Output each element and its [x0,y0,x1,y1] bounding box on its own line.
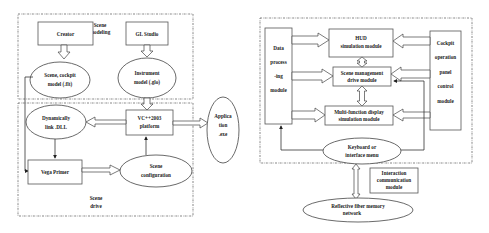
data-to-hud-arrow [292,33,329,47]
vc-to-application-arrow [173,118,208,128]
instrument-model-ellipse [118,58,176,98]
vega-label: Vega Primer [41,169,70,175]
cockpit-label-4: control [438,83,454,89]
data-label-1: Data [273,45,284,51]
vc-to-dll-arrow [86,117,126,127]
data-label-3: -ing [274,73,283,79]
dynamic-link-dll-ellipse [26,105,86,139]
cockpit-to-scene-mgmt-arrow [391,67,430,81]
data-label-2: process [270,59,286,65]
data-to-scene-mgmt-arrow [292,69,333,83]
interaction-label-3: module [386,184,403,190]
left-diagram: Scene modeling Creator GL Studio Scene, … [18,14,239,216]
cockpit-to-hud-arrow [393,34,430,48]
keyboard-label-2: interface menu [345,152,378,158]
dll-label-1: Dynamically [42,115,70,121]
hud-label-2: simulation module [340,43,382,49]
mfd-label-2: simulation module [338,116,380,122]
scene-cockpit-model-ellipse [30,62,90,98]
scene-cockpit-label-2: model (.flt) [48,81,73,88]
scene-drive-label-2: drive [90,203,102,209]
instrument-to-vc-arrow [141,98,153,110]
fiber-label-2: network [343,210,362,216]
scene-config-label-1: Scene [150,163,163,169]
interaction-label-1: Interaction [382,170,407,176]
keyboard-interface-menu-ellipse [323,138,401,164]
app-label-2: tion [219,122,228,128]
app-label-3: .exe [219,131,228,137]
keyboard-to-data-connector [281,126,323,150]
scene-mgmt-label-2: drive module [347,77,377,83]
keyboard-label-1: Keyboard or [348,144,377,150]
cockpit-label-5: module [437,98,454,104]
scene-config-label-2: configuration [141,172,171,178]
mfd-label-1: Multi-function display [334,109,384,115]
scene-drive-label-1: Scene [90,195,103,201]
data-to-mfd-arrow [292,108,325,122]
right-diagram: Data process -ing module HUD simulation … [260,18,472,222]
hud-label-1: HUD [355,35,367,41]
system-fiber-double-arrow [352,164,360,199]
scene-mgmt-label-1: Scene management [341,70,384,76]
fiber-label-1: Reflective fiber memory [331,203,385,209]
scene-mgmt-mfd-double-arrow [357,86,367,106]
scene-configuration-ellipse [120,155,192,187]
vega-to-config-arrow [82,165,120,175]
diagram-canvas: Scene modeling Creator GL Studio Scene, … [0,0,489,233]
dll-label-2: link .DLL [45,124,67,130]
vc-label-2: platform [140,123,160,129]
interaction-label-2: communication [377,177,411,183]
instrument-label-1: Instrument [134,70,159,76]
glstudio-to-instrument-arrow [141,45,153,57]
data-label-4: module [270,87,287,93]
scene-modeling-label-1: Scene [94,22,107,28]
creator-label: Creator [57,31,75,37]
hud-scene-mgmt-double-arrow [357,57,367,67]
application-exe-ellipse [207,97,239,163]
gl-studio-label: GL Studio [136,31,159,37]
cockpit-label-1: Cockpit [437,40,455,46]
cockpit-to-mfd-arrow [393,109,430,121]
app-label-1: Applica [214,113,232,119]
vc-label-1: VC++2003 [138,115,162,121]
scene-cockpit-label-1: Scene, cockpit [44,72,76,78]
cockpit-label-2: operation [435,54,456,60]
creator-to-scene-arrow [58,45,70,59]
instrument-label-2: model (.glo) [134,79,160,86]
cockpit-label-3: panel [439,69,452,75]
